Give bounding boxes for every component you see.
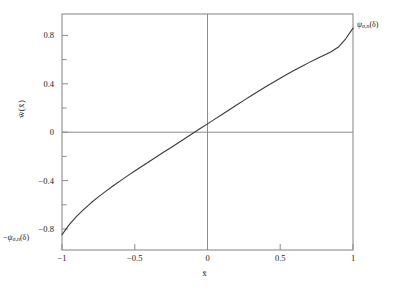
y-tick-label-2: 0 xyxy=(14,127,54,137)
y-axis-major-ticks xyxy=(62,35,68,229)
zero-axis-lines xyxy=(62,14,353,250)
chart-plot-area xyxy=(0,0,409,293)
y-axis-title: w̄(x̄) xyxy=(16,104,26,118)
x-tick-label-3: 0.5 xyxy=(260,253,300,263)
psi-lower-argument: (δ) xyxy=(20,233,29,242)
psi-upper-argument: (δ) xyxy=(369,20,378,29)
x-tick-label-0: −1 xyxy=(42,253,82,263)
psi-lower-subscript: σ,n xyxy=(12,236,19,242)
y-tick-label-0: 0.8 xyxy=(14,30,54,40)
annotation-psi-lower: −ψσ,n(δ) xyxy=(3,233,29,242)
x-tick-label-1: −0.5 xyxy=(115,253,155,263)
x-axis-ticks xyxy=(62,244,353,250)
y-tick-label-1: 0.4 xyxy=(14,79,54,89)
y-tick-label-3: −0.4 xyxy=(14,176,54,186)
x-axis-title: x̄ xyxy=(0,268,409,278)
x-tick-label-2: 0 xyxy=(188,253,228,263)
x-tick-label-4: 1 xyxy=(333,253,373,263)
annotation-psi-upper: ψσ,n(δ) xyxy=(357,20,379,29)
figure-canvas: w̄(x̄) x̄ −1 −0.5 0 0.5 1 0.8 0.4 0 −0.4… xyxy=(0,0,409,293)
